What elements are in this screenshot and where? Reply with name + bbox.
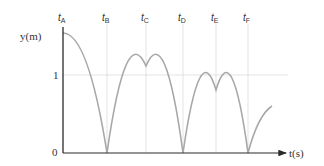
bouncing-ball-chart: y(m) 1 0 t(s) tA tB tC tD tE tF xyxy=(0,0,324,166)
y-axis-label: y(m) xyxy=(20,30,42,43)
time-marker-labels: tA tB tC tD tE tF xyxy=(58,12,250,24)
marker-tE: tE xyxy=(211,12,219,24)
x-axis-label: t(s) xyxy=(289,147,304,160)
marker-tA: tA xyxy=(58,12,66,24)
marker-tD: tD xyxy=(178,12,186,24)
vertical-gridlines xyxy=(107,24,248,153)
trajectory-curve xyxy=(63,33,272,153)
y-tick-1: 1 xyxy=(53,69,59,81)
y-tick-0: 0 xyxy=(52,146,58,158)
marker-tB: tB xyxy=(102,12,110,24)
marker-tF: tF xyxy=(243,12,250,24)
marker-tC: tC xyxy=(141,12,149,24)
